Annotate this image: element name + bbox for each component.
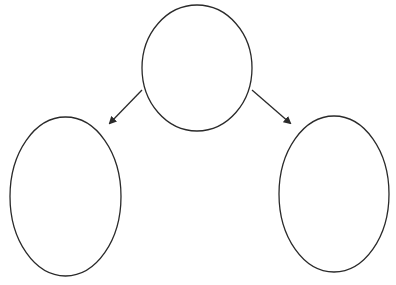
edges: [110, 90, 290, 123]
arrow-parent-to-right-child: [252, 90, 290, 123]
node-right-child: [279, 116, 389, 272]
nodes: [10, 5, 389, 276]
node-parent: [142, 5, 252, 131]
arrow-parent-to-left-child: [110, 90, 142, 123]
node-left-child: [10, 117, 121, 276]
diagram-canvas: [0, 0, 396, 285]
